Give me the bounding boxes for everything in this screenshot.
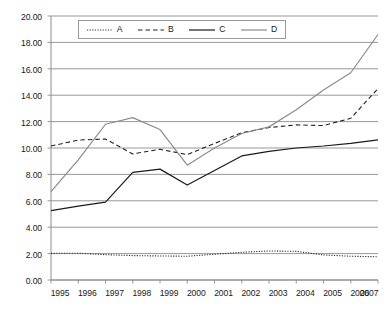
series-lines (51, 34, 378, 256)
legend-entry-b[interactable]: B (138, 25, 174, 34)
x-tick-label: 2003 (265, 288, 291, 298)
legend-swatch-b-icon (138, 26, 164, 34)
y-tick-label: 10.00 (8, 144, 42, 154)
legend-label-d: D (271, 25, 277, 34)
plot-canvas (51, 16, 378, 280)
y-tick-label: 6.00 (8, 197, 42, 207)
x-tick-label: 1996 (74, 288, 100, 298)
y-tick-label: 8.00 (8, 170, 42, 180)
x-tick-label: 1995 (47, 288, 73, 298)
x-tick-label: 1999 (156, 288, 182, 298)
line-chart: 20.00 18.00 16.00 14.00 12.00 10.00 8.00… (0, 0, 386, 313)
y-tick-label: 4.00 (8, 223, 42, 233)
x-tick-label: 2005 (320, 288, 346, 298)
y-tick-label: 0.00 (8, 276, 42, 286)
legend-entry-d[interactable]: D (241, 25, 277, 34)
y-tick-label: 2.00 (8, 250, 42, 260)
y-tick-label: 12.00 (8, 118, 42, 128)
legend-label-c: C (219, 25, 225, 34)
x-tick-label: 2007 (356, 288, 382, 298)
y-tick-label: 14.00 (8, 91, 42, 101)
y-tick-label: 20.00 (8, 12, 42, 22)
y-tick-label: 16.00 (8, 65, 42, 75)
legend-entry-a[interactable]: A (87, 25, 123, 34)
legend-entry-c[interactable]: C (189, 25, 225, 34)
x-tick-label: 1998 (129, 288, 155, 298)
legend-swatch-a-icon (87, 26, 113, 34)
legend: A B C D (78, 20, 286, 39)
x-tick-label: 1997 (102, 288, 128, 298)
legend-swatch-c-icon (189, 26, 215, 34)
y-tick-label: 18.00 (8, 38, 42, 48)
legend-label-a: A (117, 25, 123, 34)
legend-swatch-d-icon (241, 26, 267, 34)
x-tick-label: 2000 (183, 288, 209, 298)
legend-label-b: B (168, 25, 174, 34)
series-line-c (51, 140, 378, 211)
x-tick-label: 2002 (238, 288, 264, 298)
series-line-d (51, 34, 378, 191)
plot-area (51, 16, 378, 280)
x-tick-label: 2004 (292, 288, 318, 298)
x-tick-label: 2001 (211, 288, 237, 298)
